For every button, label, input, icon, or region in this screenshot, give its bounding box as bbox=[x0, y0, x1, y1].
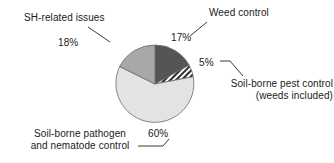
slice-percent-sh-related-issues: 18% bbox=[58, 37, 78, 49]
slice-label-sh-related-issues: SH-related issues bbox=[24, 12, 105, 24]
slice-label-soil-borne-pest-control-line1: Soil-borne pest control bbox=[231, 78, 333, 89]
slice-label-soil-borne-pest-control: Soil-borne pest control(weeds included) bbox=[207, 78, 333, 102]
slice-label-weed-control: Weed control bbox=[209, 7, 269, 19]
slice-percent-soil-borne-pathogen-nematode-control: 60% bbox=[148, 128, 168, 140]
slice-label-soil-borne-pathogen-line2: and nematode control bbox=[18, 140, 142, 152]
leader-line-weed-control bbox=[190, 22, 207, 36]
slice-label-soil-borne-pest-control-line2: (weeds included) bbox=[207, 90, 333, 102]
slice-label-soil-borne-pathogen-nematode-control: Soil-borne pathogenand nematode control bbox=[18, 128, 142, 152]
leader-line-soil-borne-pathogen bbox=[138, 139, 169, 146]
pie-chart-figure: SH-related issues 18% Weed control 17% 5… bbox=[0, 0, 334, 163]
leader-line-soil-borne-pest-control bbox=[220, 61, 243, 76]
slice-percent-soil-borne-pest-control: 5% bbox=[199, 57, 214, 69]
leader-line-sh-related-issues bbox=[88, 27, 110, 42]
slice-percent-weed-control: 17% bbox=[171, 32, 191, 44]
slice-label-soil-borne-pathogen-line1: Soil-borne pathogen bbox=[34, 128, 126, 139]
